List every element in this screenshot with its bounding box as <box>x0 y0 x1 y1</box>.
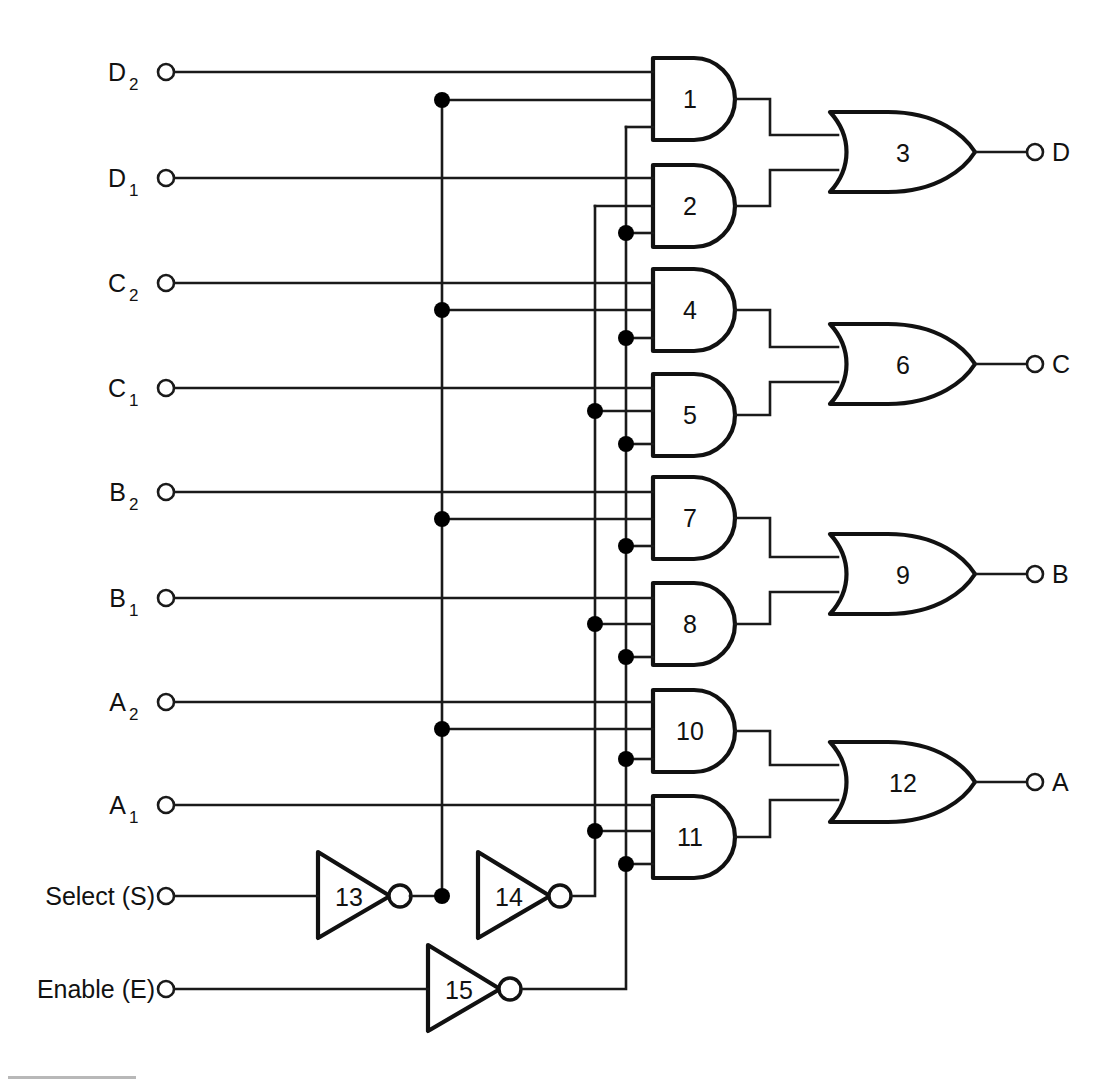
and-gate-8-label: 8 <box>683 610 697 638</box>
inverter-15-label: 15 <box>445 976 473 1004</box>
inverter-13[interactable]: 13 <box>318 852 411 938</box>
wire-and4-or6 <box>735 310 838 347</box>
page-rule <box>8 1076 136 1079</box>
junction-dot <box>618 649 634 665</box>
and-gate-4-label: 4 <box>683 296 697 324</box>
input-c2-sub: 2 <box>129 286 138 305</box>
junction-dot <box>434 302 450 318</box>
bus-e-not <box>521 127 653 989</box>
terminal-c1[interactable]: C 1 <box>108 374 174 410</box>
or-gate-9[interactable]: 9 <box>830 534 975 614</box>
input-a2-sub: 2 <box>129 705 138 724</box>
or-gate-6[interactable]: 6 <box>830 324 975 404</box>
inverter-13-label: 13 <box>335 883 363 911</box>
and-gate-10-label: 10 <box>676 717 704 745</box>
junction-dot <box>434 92 450 108</box>
input-c1-label: C <box>108 374 126 402</box>
input-d2-label: D <box>108 58 126 86</box>
junction-dot <box>587 823 603 839</box>
or-gate-3-label: 3 <box>896 139 910 167</box>
inverter-14-label: 14 <box>495 883 523 911</box>
wire-and1-or3 <box>735 99 838 135</box>
and-gate-2[interactable]: 2 <box>653 165 735 247</box>
output-a-label: A <box>1052 768 1069 796</box>
wire-and8-or9 <box>735 592 838 624</box>
input-c2-label: C <box>108 269 126 297</box>
and-gate-8[interactable]: 8 <box>653 583 735 665</box>
and-gate-5[interactable]: 5 <box>653 374 735 456</box>
and-gate-1[interactable]: 1 <box>653 58 735 140</box>
and-gate-1-label: 1 <box>683 85 697 113</box>
junction-dot <box>618 330 634 346</box>
junction-dot <box>587 616 603 632</box>
junction-dot <box>434 721 450 737</box>
or-gate-6-label: 6 <box>896 351 910 379</box>
junction-dot <box>587 403 603 419</box>
inverter-15[interactable]: 15 <box>428 945 521 1031</box>
or-gate-12[interactable]: 12 <box>830 742 975 822</box>
junction-dot <box>434 511 450 527</box>
terminal-out-d[interactable]: D <box>1027 138 1070 166</box>
junction-dot <box>618 436 634 452</box>
wire-and2-or3 <box>735 170 838 206</box>
terminal-select[interactable]: Select (S) <box>45 882 174 910</box>
and-gate-10[interactable]: 10 <box>653 690 735 772</box>
terminal-out-c[interactable]: C <box>1027 350 1070 378</box>
output-d-label: D <box>1052 138 1070 166</box>
terminal-b1[interactable]: B 1 <box>109 584 174 620</box>
and-gate-7[interactable]: 7 <box>653 477 735 559</box>
wire-and7-or9 <box>735 518 838 557</box>
circuit-diagram-canvas: 1 2 4 5 7 8 10 11 3 6 9 12 <box>0 0 1116 1087</box>
wire-and11-or12 <box>735 800 838 837</box>
terminal-out-a[interactable]: A <box>1027 768 1069 796</box>
junction-dot <box>618 538 634 554</box>
junction-dot <box>618 751 634 767</box>
junction-dot <box>618 225 634 241</box>
terminal-a1[interactable]: A 1 <box>109 791 174 827</box>
terminal-enable[interactable]: Enable (E) <box>37 975 174 1003</box>
output-b-label: B <box>1052 560 1069 588</box>
or-gate-9-label: 9 <box>896 561 910 589</box>
terminal-c2[interactable]: C 2 <box>108 269 174 305</box>
input-b1-sub: 1 <box>129 601 138 620</box>
output-c-label: C <box>1052 350 1070 378</box>
input-b1-label: B <box>109 584 126 612</box>
bus-s-not <box>410 100 653 896</box>
and-gate-7-label: 7 <box>683 504 697 532</box>
input-d1-label: D <box>108 164 126 192</box>
input-a1-label: A <box>109 791 126 819</box>
terminal-d2[interactable]: D 2 <box>108 58 174 94</box>
terminal-out-b[interactable]: B <box>1027 560 1069 588</box>
input-b2-label: B <box>109 478 126 506</box>
inverter-14[interactable]: 14 <box>478 852 571 938</box>
input-d2-sub: 2 <box>129 75 138 94</box>
wire-and10-or12 <box>735 731 838 765</box>
input-a1-sub: 1 <box>129 808 138 827</box>
and-gate-11-label: 11 <box>677 823 703 851</box>
terminal-a2[interactable]: A 2 <box>109 688 174 724</box>
terminal-b2[interactable]: B 2 <box>109 478 174 514</box>
junction-dot <box>434 888 450 904</box>
or-gate-3[interactable]: 3 <box>830 112 975 192</box>
wire-and5-or6 <box>735 382 838 415</box>
logic-diagram-svg: 1 2 4 5 7 8 10 11 3 6 9 12 <box>0 0 1116 1087</box>
and-gate-11[interactable]: 11 <box>653 796 735 878</box>
and-gate-2-label: 2 <box>683 192 697 220</box>
input-b2-sub: 2 <box>129 495 138 514</box>
input-enable-label: Enable (E) <box>37 975 155 1003</box>
input-select-label: Select (S) <box>45 882 155 910</box>
input-d1-sub: 1 <box>129 181 138 200</box>
input-a2-label: A <box>109 688 126 716</box>
and-gate-4[interactable]: 4 <box>653 269 735 351</box>
input-c1-sub: 1 <box>129 391 138 410</box>
and-gate-5-label: 5 <box>683 401 697 429</box>
junction-dot <box>618 856 634 872</box>
terminal-d1[interactable]: D 1 <box>108 164 174 200</box>
or-gate-12-label: 12 <box>889 769 917 797</box>
